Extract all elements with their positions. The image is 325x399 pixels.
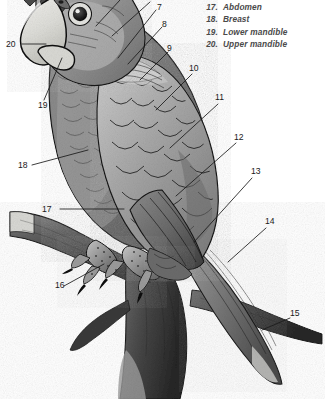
legend-label-17: Abdomen [223,2,319,12]
legend-item-20: 20. Upper mandible [201,39,319,49]
callout-number-7: 7 [157,3,162,12]
callout-number-8: 8 [162,20,167,29]
callout-number-13: 13 [251,167,261,176]
eye-iris [73,7,87,21]
legend-item-19: 19. Lower mandible [201,27,319,37]
eye [69,3,92,26]
parrot-anatomy-figure [0,0,325,399]
callout-number-17: 17 [42,205,52,214]
callout-number-10: 10 [189,64,199,73]
callout-number-9: 9 [167,44,172,53]
callout-number-11: 11 [215,93,224,102]
callout-number-19: 19 [38,101,48,110]
callout-number-15: 15 [290,309,300,318]
callout-number-12: 12 [234,133,244,142]
legend-label-19: Lower mandible [223,27,319,37]
legend-number-19: 19. [201,27,223,37]
callout-number-14: 14 [265,217,275,226]
eye-highlight [76,9,80,13]
legend-number-20: 20. [201,39,223,49]
callout-number-18: 18 [18,161,28,170]
parrot-illustration [0,0,325,399]
legend-item-18: 18. Breast [201,14,319,24]
nostril [58,0,63,4]
legend-list: 17. Abdomen 18. Breast 19. Lower mandibl… [201,2,319,52]
legend-label-20: Upper mandible [223,39,319,49]
legend-number-18: 18. [201,14,223,24]
legend-item-17: 17. Abdomen [201,2,319,12]
callout-number-20: 20 [6,40,16,49]
callout-number-16: 16 [55,281,65,290]
legend-number-17: 17. [201,2,223,12]
legend-label-18: Breast [223,14,319,24]
